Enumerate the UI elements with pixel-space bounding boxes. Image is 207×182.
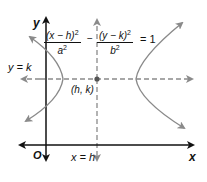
diagram-canvas (0, 0, 207, 182)
y-axis-label: y (33, 17, 40, 29)
y-equals-k-label: y = k (8, 62, 32, 73)
center-label: (h, k) (71, 85, 94, 95)
x-equals-h-label: x = h (71, 152, 95, 163)
equation-equals-one: = 1 (140, 34, 156, 45)
origin-label: O (33, 150, 42, 161)
equation-term1: (x − h)2 a2 (44, 29, 81, 56)
term1-numerator: (x − h) (46, 30, 75, 41)
x-axis-label: x (189, 151, 196, 163)
center-point (94, 76, 99, 81)
term2-numerator: (y − k) (99, 30, 127, 41)
hyperbola-right-branch (136, 23, 182, 79)
hyperbola-diagram: (x − h)2 a2 − (y − k)2 b2 = 1 y x O y = … (0, 0, 207, 182)
equation-minus: − (87, 34, 93, 44)
equation-term2: (y − k)2 b2 (97, 29, 133, 56)
